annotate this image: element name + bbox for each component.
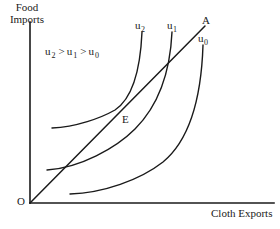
- utility-order-u2-subscript: 2: [51, 51, 57, 60]
- utility-order-u1-subscript: 1: [72, 51, 78, 60]
- y-axis-label-line2: Imports: [10, 14, 44, 26]
- curve-label-u0-subscript: 0: [204, 38, 209, 47]
- y-axis-label-line1: Food: [10, 2, 44, 14]
- utility-order-annotation: u2>u1>u0: [45, 46, 100, 58]
- curve-label-u1-subscript: 1: [173, 25, 178, 34]
- origin-label: O: [17, 196, 25, 208]
- utility-order-u0-subscript: 0: [94, 51, 100, 60]
- curve-label-u2: u2: [135, 20, 145, 32]
- curve-label-u2-base: u: [135, 19, 141, 31]
- point-label-e: E: [122, 114, 129, 126]
- plot-canvas: [0, 0, 280, 229]
- curve-label-u0-base: u: [198, 32, 204, 44]
- utility-order-gt-1: >: [57, 45, 67, 57]
- utility-order-u2-base: u: [45, 45, 51, 57]
- curve-label-u2-subscript: 2: [141, 25, 146, 34]
- point-label-a: A: [202, 15, 210, 27]
- curve-label-u1: u1: [167, 20, 177, 32]
- indifference-curve-u0: [70, 45, 203, 194]
- curve-label-u1-base: u: [167, 19, 173, 31]
- trade-indifference-figure: Food Imports Cloth Exports O u2>u1>u0 u2…: [0, 0, 280, 229]
- y-axis-label: Food Imports: [10, 2, 44, 25]
- curve-label-u0: u0: [198, 33, 208, 45]
- x-axis-label: Cloth Exports: [211, 208, 272, 220]
- utility-order-gt-2: >: [78, 45, 88, 57]
